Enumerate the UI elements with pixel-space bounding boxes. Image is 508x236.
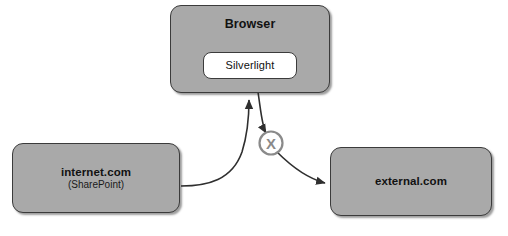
block-marker-circle — [260, 132, 283, 155]
node-internet-com-sublabel: (SharePoint) — [68, 179, 124, 191]
edge-silverlight-to-external — [258, 92, 266, 133]
edge-internet-to-browser — [181, 100, 249, 186]
node-internet-com-label: internet.com — [61, 166, 131, 179]
node-external-com-label: external.com — [375, 175, 447, 188]
edge-silverlight-to-external-tail — [277, 152, 325, 183]
node-browser-label: Browser — [225, 18, 276, 31]
diagram-canvas: X Browser Silverlight internet.com (Shar… — [0, 0, 508, 236]
node-browser[interactable]: Browser Silverlight — [170, 5, 330, 93]
node-silverlight-label: Silverlight — [226, 59, 275, 72]
block-marker-x-label: X — [266, 135, 276, 152]
node-internet-com[interactable]: internet.com (SharePoint) — [12, 143, 180, 213]
node-silverlight[interactable]: Silverlight — [203, 52, 297, 79]
node-external-com[interactable]: external.com — [330, 147, 492, 216]
